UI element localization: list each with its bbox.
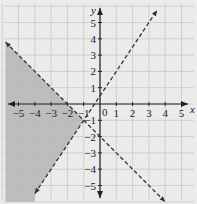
x-axis-label: x — [189, 103, 195, 115]
x-tick-label: 5 — [179, 107, 185, 119]
x-tick-label: −5 — [13, 107, 25, 119]
x-tick-label: 1 — [114, 107, 120, 119]
y-axis-label: y — [90, 4, 96, 16]
graph: −5−4−3−2−11234554321−1−2−3−4−50xy — [0, 0, 197, 204]
x-tick-label: −4 — [29, 107, 41, 119]
y-tick-label: −2 — [84, 131, 96, 143]
x-tick-label: 4 — [162, 107, 168, 119]
y-tick-label: −3 — [84, 147, 96, 159]
x-tick-label: 2 — [130, 107, 136, 119]
y-axis-arrow-up-icon — [97, 8, 103, 15]
x-tick-label: −3 — [45, 107, 57, 119]
y-tick-label: 5 — [91, 17, 97, 29]
x-tick-label: 3 — [146, 107, 152, 119]
origin-label: 0 — [102, 106, 108, 118]
line-arrow-icon — [152, 10, 157, 16]
y-tick-label: −5 — [84, 180, 96, 192]
y-tick-label: 2 — [91, 65, 97, 77]
y-tick-label: 1 — [91, 82, 97, 94]
y-tick-label: −4 — [84, 163, 96, 175]
shaded-region — [5, 42, 83, 202]
y-tick-label: 3 — [91, 49, 97, 61]
coordinate-plane: −5−4−3−2−11234554321−1−2−3−4−50xy — [0, 0, 197, 204]
y-tick-label: 4 — [91, 33, 97, 45]
y-axis-arrow-down-icon — [97, 191, 103, 198]
